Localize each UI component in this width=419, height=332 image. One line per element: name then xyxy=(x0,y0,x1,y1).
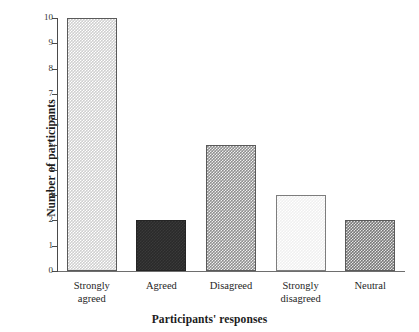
x-axis-line xyxy=(57,271,405,272)
y-tick: 6 xyxy=(57,119,63,120)
x-category-label-line: Disagreed xyxy=(196,280,266,293)
x-category-label-line: agreed xyxy=(57,293,127,306)
x-category-label: Stronglyagreed xyxy=(57,280,127,305)
y-tick: 9 xyxy=(57,43,63,44)
bar xyxy=(206,145,256,272)
y-tick-label: 9 xyxy=(49,36,54,49)
y-tick: 7 xyxy=(57,94,63,95)
x-category-label-line: Agreed xyxy=(127,280,197,293)
y-tick-label: 6 xyxy=(49,112,54,125)
y-tick: 3 xyxy=(57,195,63,196)
y-tick-label: 4 xyxy=(49,163,54,176)
bar-chart-figure: Number of participants 109876543210 Stro… xyxy=(0,0,419,332)
x-category-label-line: disagreed xyxy=(266,293,336,306)
y-tick: 4 xyxy=(57,170,63,171)
y-tick-label: 7 xyxy=(49,87,54,100)
x-category-label-line: Strongly xyxy=(266,280,336,293)
y-tick: 5 xyxy=(57,145,63,146)
bar xyxy=(345,220,395,271)
y-tick-label: 3 xyxy=(49,188,54,201)
y-tick: 8 xyxy=(57,69,63,70)
x-category-label: Neutral xyxy=(335,280,405,293)
x-category-label-line: Strongly xyxy=(57,280,127,293)
y-tick: 2 xyxy=(57,220,63,221)
y-tick-label: 10 xyxy=(44,11,53,24)
y-tick: 1 xyxy=(57,246,63,247)
y-tick-label: 0 xyxy=(49,264,54,277)
y-tick-label: 8 xyxy=(49,62,54,75)
plot-area: 109876543210 xyxy=(57,18,405,272)
x-axis-title: Participants' responses xyxy=(0,313,419,325)
bar xyxy=(67,18,117,271)
y-tick: 10 xyxy=(57,18,63,19)
y-tick: 0 xyxy=(57,271,63,272)
bar xyxy=(136,220,186,271)
bar xyxy=(276,195,326,271)
y-tick-label: 1 xyxy=(49,239,54,252)
x-category-label-line: Neutral xyxy=(335,280,405,293)
x-category-label: Disagreed xyxy=(196,280,266,293)
y-tick-label: 5 xyxy=(49,138,54,151)
x-category-label: Agreed xyxy=(127,280,197,293)
y-tick-label: 2 xyxy=(49,213,54,226)
x-category-label: Stronglydisagreed xyxy=(266,280,336,305)
